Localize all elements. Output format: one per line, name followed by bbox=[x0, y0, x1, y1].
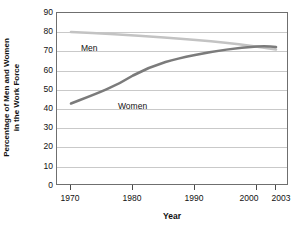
x-tick-mark-2000 bbox=[256, 185, 257, 190]
y-tick-label: 10 bbox=[23, 161, 53, 171]
x-tick-mark-2003 bbox=[275, 185, 276, 190]
y-tick-label: 80 bbox=[23, 26, 53, 36]
x-tick-mark-1980 bbox=[132, 185, 133, 190]
x-axis-title: Year bbox=[56, 211, 288, 221]
y-tick-label: 50 bbox=[23, 84, 53, 94]
x-tick-label-1970: 1970 bbox=[61, 193, 80, 203]
y-tick-label: 70 bbox=[23, 45, 53, 55]
x-tick-label-1990: 1990 bbox=[185, 193, 204, 203]
series-plot bbox=[57, 13, 288, 185]
y-tick-label: 90 bbox=[23, 7, 53, 17]
y-axis-title-line-2: in the Work Force bbox=[11, 38, 21, 157]
plot-area: Men Women bbox=[56, 12, 288, 185]
x-tick-label-1980: 1980 bbox=[123, 193, 142, 203]
y-axis-title: Percentage of Men and Women in the Work … bbox=[0, 0, 22, 195]
series-line-women bbox=[71, 46, 276, 103]
y-tick-label: 0 bbox=[23, 180, 53, 190]
y-tick-label: 20 bbox=[23, 141, 53, 151]
y-tick-label: 30 bbox=[23, 122, 53, 132]
series-label-men: Men bbox=[81, 43, 98, 53]
series-label-women: Women bbox=[118, 101, 147, 111]
y-axis-title-line-1: Percentage of Men and Women bbox=[2, 38, 12, 157]
y-tick-label: 60 bbox=[23, 65, 53, 75]
x-tick-mark-1970 bbox=[70, 185, 71, 190]
x-tick-label-2003: 2003 bbox=[272, 193, 291, 203]
x-axis-tick-labels: 1970 1980 1990 2000 2003 bbox=[0, 193, 305, 207]
y-tick-label: 40 bbox=[23, 103, 53, 113]
x-tick-label-2000: 2000 bbox=[240, 193, 259, 203]
x-tick-mark-1990 bbox=[194, 185, 195, 190]
chart-figure: Percentage of Men and Women in the Work … bbox=[0, 0, 305, 233]
